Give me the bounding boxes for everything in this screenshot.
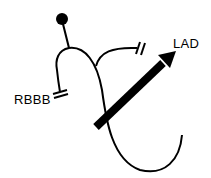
- rbbb-block-mark-2: [54, 94, 68, 98]
- axis-arrow-shaft: [96, 63, 163, 127]
- left-anterior-fascicle: [96, 48, 137, 66]
- conduction-diagram: [0, 0, 211, 178]
- origin-dot: [56, 13, 68, 25]
- lafb-block-mark-2: [141, 43, 145, 55]
- main-stem: [63, 24, 69, 48]
- lad-label: LAD: [173, 36, 199, 51]
- right-bundle-branch: [56, 48, 69, 92]
- rbbb-label: RBBB: [14, 92, 51, 107]
